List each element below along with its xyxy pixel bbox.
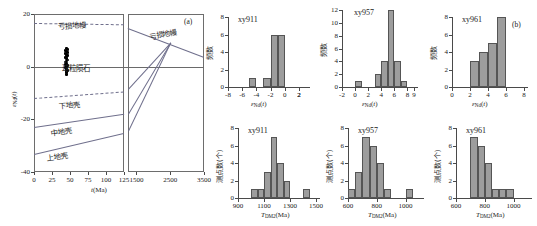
hist-bar <box>488 43 497 87</box>
hist-xlabel: TDM2(Ma) <box>261 211 290 219</box>
panel-a-xtick <box>204 172 205 175</box>
hist-ytick <box>225 52 228 53</box>
hist-bar <box>388 10 395 87</box>
hist-bar <box>492 189 499 198</box>
panel-a-xtick <box>170 172 171 175</box>
hist-ytick-label: 0 <box>210 83 224 91</box>
panel-a-label-depleted-mantle: 亏损地幔 <box>58 19 86 31</box>
hist-bar <box>478 146 485 199</box>
hist-ytick <box>345 181 348 182</box>
hist-xtick-label: 1100 <box>253 202 275 210</box>
hist-xlabel: εNd(t) <box>472 100 488 108</box>
hist-ytick <box>225 17 228 18</box>
hist-xtick-label: 1500 <box>305 202 327 210</box>
hist-ytick <box>449 70 452 71</box>
hist-bar <box>303 189 310 198</box>
panel-a-ytick-label: 0 <box>6 63 30 71</box>
hist-bar <box>377 163 384 198</box>
hist-ytick <box>453 181 456 182</box>
hist-ytick-label: 0 <box>438 194 452 202</box>
panel-a-xtick-label: 1500 <box>122 176 150 184</box>
hist-ylabel: 频数 <box>204 46 214 60</box>
panel-a-zero-line <box>34 67 204 68</box>
hist-ytick-label: 8 <box>324 32 338 40</box>
hist-ytick <box>339 36 342 37</box>
hist-bar <box>355 81 362 87</box>
hist-bar <box>394 61 401 87</box>
hist-xaxis <box>348 198 424 199</box>
hist-xtick-label: 2 <box>288 91 310 99</box>
panel-a-label-lower-crust: 下地壳 <box>58 98 80 111</box>
hist-ytick <box>339 23 342 24</box>
panel-a-xtick <box>52 172 53 175</box>
hist-ytick <box>235 146 238 147</box>
hist-ylabel: 测点数(个) <box>324 150 334 183</box>
hist-xaxis <box>238 198 320 199</box>
panel-a-xtick <box>136 172 137 175</box>
hist-ytick <box>339 61 342 62</box>
hist-xaxis <box>456 198 532 199</box>
panel-a-xtick <box>124 172 125 175</box>
hist-ytick-label: 10 <box>324 19 338 27</box>
hist-bar <box>401 81 408 87</box>
hist-bar <box>381 61 388 87</box>
hist-bar <box>506 189 513 198</box>
hist-ytick <box>339 74 342 75</box>
hist-bar <box>362 137 369 198</box>
hist-bar <box>370 146 377 199</box>
hist-ytick-label: 6 <box>434 31 448 39</box>
panel-a-xtick <box>88 172 89 175</box>
hist-ytick <box>449 52 452 53</box>
hist-ytick-label: 0 <box>324 83 338 91</box>
hist-ytick <box>235 181 238 182</box>
hist-bar <box>406 189 413 198</box>
panel-b-tag: (b) <box>512 20 521 29</box>
hist-xtick-label: 1300 <box>279 202 301 210</box>
hist-xtick-label: 1000 <box>395 202 417 210</box>
panel-a-tag: (a) <box>184 17 192 26</box>
hist-bar <box>249 78 256 87</box>
hist-xtick-label: 800 <box>474 202 496 210</box>
hist-bar <box>284 181 291 199</box>
hist-bar <box>348 189 355 198</box>
panel-a-ytick <box>31 14 34 15</box>
hist-ytick <box>339 10 342 11</box>
hist-xlabel: TDM2(Ma) <box>476 211 505 219</box>
figure-root: 200-20-400255075100125150025003500t(Ma)ε… <box>0 0 537 226</box>
panel-a-ytick-label: -40 <box>6 168 30 176</box>
panel-a-xtick <box>106 172 107 175</box>
hist-ytick-label: 8 <box>438 124 452 132</box>
hist-series-label: xy961 <box>466 126 486 135</box>
panel-a-ytick-label: -20 <box>6 115 30 123</box>
hist-xaxis <box>452 87 528 88</box>
hist-ytick <box>235 128 238 129</box>
panel-a-xtick <box>70 172 71 175</box>
hist-xlabel: εNd(t) <box>362 100 378 108</box>
hist-bar <box>479 52 488 87</box>
hist-yaxis <box>452 17 453 88</box>
hist-ylabel: 频数 <box>428 46 438 60</box>
hist-ytick-label: 6 <box>220 142 234 150</box>
hist-ylabel: 测点数(个) <box>214 150 224 183</box>
panel-a-xlabel: t(Ma) <box>91 186 107 194</box>
hist-bar <box>485 163 492 198</box>
hist-ylabel: 频数 <box>318 43 328 57</box>
hist-ytick <box>449 35 452 36</box>
hist-series-label: xy911 <box>238 15 258 24</box>
panel-a-sample-point <box>65 73 68 76</box>
hist-ytick-label: 8 <box>210 13 224 21</box>
hist-series-label: xy911 <box>248 126 268 135</box>
hist-xtick-label: 600 <box>337 202 359 210</box>
hist-ytick <box>225 70 228 71</box>
hist-xtick-label: 9 <box>403 91 425 99</box>
hist-series-label: xy961 <box>462 15 482 24</box>
panel-a-ytick-label: 20 <box>6 10 30 18</box>
hist-ytick-label: 12 <box>324 6 338 14</box>
panel-a-xtick-label: 2500 <box>156 176 184 184</box>
hist-bar <box>263 78 270 87</box>
panel-a-ylabel: εNd(t) <box>10 91 18 107</box>
hist-bar <box>278 35 285 88</box>
hist-xtick-label: 800 <box>366 202 388 210</box>
hist-bar <box>470 137 477 198</box>
hist-bar <box>384 189 391 198</box>
